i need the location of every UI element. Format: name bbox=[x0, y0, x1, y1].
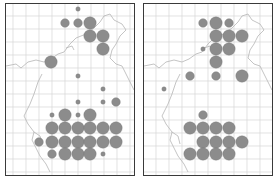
record-circle-medium bbox=[186, 72, 195, 81]
record-circle-small bbox=[76, 7, 80, 11]
record-circle-large bbox=[110, 122, 122, 134]
map-canvas-left bbox=[6, 4, 135, 176]
record-circle-large bbox=[84, 136, 96, 148]
record-circle-medium bbox=[199, 111, 208, 120]
record-circle-large bbox=[59, 122, 71, 134]
record-circle-large bbox=[110, 136, 122, 148]
record-circle-large bbox=[46, 122, 58, 134]
record-circle-medium bbox=[112, 98, 121, 107]
record-circle-large bbox=[210, 30, 222, 42]
record-circle-large bbox=[97, 43, 109, 55]
record-circle-small bbox=[50, 113, 54, 117]
record-circle-large bbox=[223, 148, 235, 160]
coastline bbox=[6, 14, 134, 172]
record-circle-large bbox=[223, 30, 235, 42]
record-circle-medium bbox=[212, 72, 221, 81]
record-circle-large bbox=[210, 17, 222, 29]
record-circle-large bbox=[46, 136, 58, 148]
record-circle-large bbox=[210, 56, 222, 68]
record-circle-large bbox=[59, 109, 71, 121]
distribution-map-left bbox=[5, 3, 135, 176]
record-circle-large bbox=[184, 122, 196, 134]
record-circle-large bbox=[223, 43, 235, 55]
record-circle-large bbox=[59, 148, 71, 160]
record-circle-large bbox=[72, 148, 84, 160]
record-circle-large bbox=[72, 122, 84, 134]
record-circle-medium bbox=[35, 138, 44, 147]
record-circle-large bbox=[210, 148, 222, 160]
record-circle-large bbox=[210, 122, 222, 134]
record-circle-large bbox=[72, 136, 84, 148]
record-circle-small bbox=[101, 87, 105, 91]
record-circle-large bbox=[184, 148, 196, 160]
record-circle-large bbox=[210, 136, 222, 148]
record-circle-medium bbox=[61, 19, 70, 28]
record-circle-large bbox=[236, 70, 248, 82]
record-circle-large bbox=[97, 122, 109, 134]
record-circle-large bbox=[84, 30, 96, 42]
record-circle-large bbox=[45, 56, 57, 68]
record-circle-large bbox=[97, 136, 109, 148]
record-circle-large bbox=[223, 122, 235, 134]
map-canvas-right bbox=[144, 4, 273, 176]
record-circle-medium bbox=[74, 19, 83, 28]
distribution-map-right bbox=[143, 3, 273, 176]
record-circle-large bbox=[197, 136, 209, 148]
record-circle-small bbox=[76, 113, 80, 117]
record-circle-small bbox=[101, 100, 105, 104]
record-circle-large bbox=[210, 43, 222, 55]
record-circle-small bbox=[162, 87, 166, 91]
record-circle-small bbox=[201, 47, 205, 51]
record-circle-large bbox=[197, 148, 209, 160]
record-circle-large bbox=[236, 30, 248, 42]
record-circle-large bbox=[223, 136, 235, 148]
record-circle-large bbox=[197, 122, 209, 134]
record-circle-small bbox=[101, 152, 105, 156]
record-circle-large bbox=[97, 30, 109, 42]
record-circle-large bbox=[59, 136, 71, 148]
record-circle-large bbox=[84, 122, 96, 134]
record-circle-large bbox=[84, 109, 96, 121]
record-circle-medium bbox=[48, 150, 57, 159]
grid-lines bbox=[6, 4, 135, 176]
record-circle-small bbox=[76, 100, 80, 104]
record-circle-large bbox=[84, 17, 96, 29]
record-circle-large bbox=[236, 136, 248, 148]
record-circle-medium bbox=[199, 19, 208, 28]
record-circle-medium bbox=[225, 19, 234, 28]
record-circle-large bbox=[84, 148, 96, 160]
record-circle-small bbox=[76, 74, 80, 78]
